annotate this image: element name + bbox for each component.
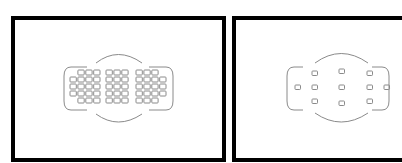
af-point [122,98,128,103]
af-point [152,77,158,82]
af-point [152,98,158,103]
af-point [114,84,120,89]
af-point [312,71,318,76]
af-point [144,91,150,96]
af-point [122,91,128,96]
af-point [136,70,142,75]
af-circle-bottom-arc-right [315,113,368,122]
af-point [86,84,92,89]
af-point [106,91,112,96]
af-point [312,85,318,90]
af-point [86,91,92,96]
af-point [70,84,76,89]
af-point [122,70,128,75]
af-point [339,85,345,90]
af-point [144,98,150,103]
af-point [160,84,166,89]
af-point [78,77,84,82]
af-point [106,98,112,103]
af-point [136,98,142,103]
af-point [367,71,373,76]
af-point [339,101,345,106]
af-point [152,84,158,89]
af-point [144,84,150,89]
af-point [114,98,120,103]
af-point [152,91,158,96]
af-point [94,70,100,75]
af-point [78,91,84,96]
af-circle-top-arc-right [315,54,368,64]
af-point [86,98,92,103]
af-point [122,84,128,89]
af-point [122,77,128,82]
af-point-grid-sparse [295,69,390,106]
af-point [144,77,150,82]
af-point [160,77,166,82]
af-point [70,91,76,96]
af-point [114,70,120,75]
af-point-grid-dense [70,70,166,103]
af-point [312,99,318,104]
af-circle-top-arc-left [96,55,142,64]
af-point [86,77,92,82]
af-point [152,70,158,75]
af-point [114,91,120,96]
af-point [367,99,373,104]
af-point [94,91,100,96]
af-point [70,77,76,82]
af-point [78,84,84,89]
af-point [106,70,112,75]
af-point [144,70,150,75]
af-point [136,91,142,96]
af-point [136,77,142,82]
af-point [94,84,100,89]
af-point [106,77,112,82]
af-point [106,84,112,89]
af-point [160,91,166,96]
af-point [78,70,84,75]
af-point [94,77,100,82]
af-point [295,85,301,90]
af-point [114,77,120,82]
af-circle-bottom-arc-left [96,114,142,122]
af-point [136,84,142,89]
af-point [78,98,84,103]
af-point [94,98,100,103]
af-bracket-right-right [372,67,389,110]
af-point [86,70,92,75]
af-point [339,69,345,74]
af-point [367,85,373,90]
